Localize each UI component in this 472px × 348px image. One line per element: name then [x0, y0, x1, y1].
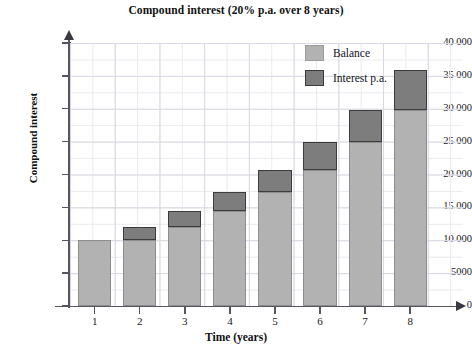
x-axis-tick-label: 4 — [218, 315, 242, 327]
compound-interest-bar-chart: Compound interest (20% p.a. over 8 years… — [0, 0, 472, 348]
bar-segment-interest — [258, 170, 291, 193]
bar-segment-interest — [303, 142, 336, 169]
legend-item: Interest p.a. — [305, 70, 425, 86]
legend-label: Balance — [333, 47, 370, 59]
bar-group — [78, 240, 111, 306]
bar-segment-balance — [349, 142, 382, 306]
x-axis-arrow-icon — [456, 301, 466, 311]
bar-group — [303, 142, 336, 306]
bar-segment-balance — [213, 211, 246, 306]
x-axis-tick-label: 5 — [263, 315, 287, 327]
x-axis-tick-label: 2 — [128, 315, 152, 327]
legend-swatch-balance — [305, 45, 324, 61]
bar-segment-interest — [349, 110, 382, 143]
bar-segment-balance — [123, 240, 156, 306]
x-axis-tick-label: 1 — [83, 315, 107, 327]
x-axis-tick — [409, 306, 410, 314]
x-axis-tick — [139, 306, 140, 314]
x-axis-tick — [184, 306, 185, 314]
bar-segment-balance — [303, 170, 336, 306]
bar-group — [394, 70, 427, 306]
x-axis-tick — [364, 306, 365, 314]
chart-title: Compound interest (20% p.a. over 8 years… — [0, 4, 472, 16]
bar-group — [168, 211, 201, 306]
bar-segment-interest — [123, 227, 156, 240]
x-axis-tick-label: 8 — [398, 315, 422, 327]
x-axis-line — [55, 306, 458, 308]
legend-label: Interest p.a. — [333, 72, 387, 84]
bar-group — [213, 192, 246, 306]
bar-group — [258, 170, 291, 306]
x-axis-tick-label: 3 — [173, 315, 197, 327]
bar-segment-balance — [394, 110, 427, 306]
bar-group — [123, 227, 156, 306]
y-axis-arrow-icon — [64, 30, 74, 40]
x-axis-tick — [94, 306, 95, 314]
bar-segment-balance — [168, 227, 201, 306]
bar-segment-balance — [258, 192, 291, 306]
bar-segment-interest — [168, 211, 201, 227]
chart-legend: BalanceInterest p.a. — [305, 45, 425, 95]
y-axis-title: Compound interest — [27, 58, 39, 218]
x-axis-tick — [319, 306, 320, 314]
bar-segment-interest — [213, 192, 246, 211]
x-axis-title: Time (years) — [0, 331, 472, 343]
bar-segment-balance — [78, 240, 111, 306]
x-axis-tick — [274, 306, 275, 314]
x-axis-tick-label: 6 — [308, 315, 332, 327]
x-axis-tick — [229, 306, 230, 314]
x-axis-tick-label: 7 — [353, 315, 377, 327]
bar-group — [349, 110, 382, 306]
legend-swatch-interest — [305, 70, 324, 86]
legend-item: Balance — [305, 45, 425, 61]
